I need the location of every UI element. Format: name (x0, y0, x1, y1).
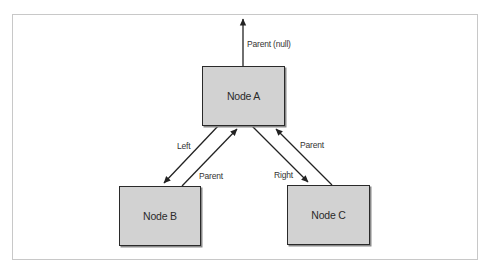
node-b-label: Node B (143, 210, 177, 222)
node-c-label: Node C (311, 209, 345, 221)
edges-layer (0, 0, 489, 271)
node-b: Node B (119, 186, 201, 246)
edge-label-parent-b: Parent (199, 172, 223, 181)
node-a-label: Node A (227, 90, 260, 102)
edge-label-right: Right (274, 171, 293, 180)
edge-label-parent-null: Parent (null) (247, 40, 291, 49)
edge-label-left: Left (177, 142, 190, 151)
node-a: Node A (202, 66, 285, 126)
node-c: Node C (287, 185, 370, 245)
edge-label-parent-c: Parent (300, 141, 324, 150)
